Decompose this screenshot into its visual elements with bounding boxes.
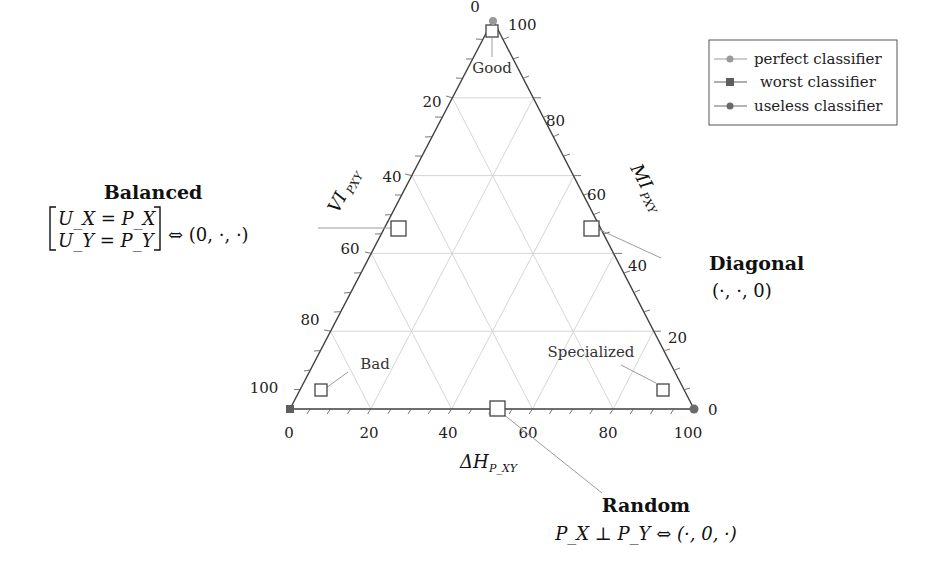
axis-title-left: VI PXY (323, 163, 367, 217)
good-marker (486, 25, 498, 37)
circle-marker-icon (727, 56, 734, 63)
balanced-title: Balanced (104, 181, 203, 203)
legend-label: perfect classifier (754, 50, 882, 68)
legend-label: useless classifier (754, 97, 883, 115)
balanced-equiv: ⇔ (0, ·, ·) (168, 224, 249, 245)
tick-label: 0 (470, 0, 480, 16)
axis-title-main: ΔH (459, 451, 489, 472)
axis-title-main: MI (626, 159, 657, 193)
tick-label: 0 (708, 401, 718, 419)
diagonal-formula: (·, ·, 0) (712, 280, 772, 301)
diagonal-title: Diagonal (709, 252, 804, 274)
bad-marker (315, 384, 327, 396)
worst-classifier-point (286, 405, 294, 413)
tick-label: 80 (546, 112, 565, 130)
random-title: Random (602, 494, 690, 516)
balanced-row2: U_Y = P_Y (58, 230, 156, 252)
specialized-marker (657, 384, 669, 396)
tick-label: 60 (587, 186, 606, 204)
tick-label: 100 (508, 16, 537, 34)
tick-label: 40 (628, 257, 647, 275)
tick-label: 40 (382, 168, 401, 186)
tick-label: 80 (300, 311, 319, 329)
balanced-row1: U_X = P_X (58, 208, 157, 230)
bottom-tick-labels: 0 20 40 60 80 100 (284, 424, 702, 442)
square-marker-icon (726, 78, 734, 86)
tick-label: 100 (674, 424, 703, 442)
balanced-annotation: Balanced U_X = P_X U_Y = P_Y ⇔ (0, ·, ·) (50, 181, 249, 252)
specialized-label: Specialized (548, 343, 635, 361)
tick-label: 0 (284, 424, 294, 442)
tick-label: 20 (359, 424, 378, 442)
left-tick-labels: 0 20 40 60 80 100 (250, 0, 480, 397)
tick-label: 40 (438, 424, 457, 442)
random-formula: P_X ⊥ P_Y ⇔ (·, 0, ·) (554, 523, 737, 545)
tick-label: 100 (250, 379, 279, 397)
perfect-classifier-point (489, 17, 497, 25)
axis-title-bottom: ΔH P_XY (459, 451, 519, 475)
useless-classifier-point (690, 405, 699, 414)
legend: perfect classifier worst classifier usel… (709, 40, 897, 125)
balanced-marker (391, 221, 406, 236)
legend-label: worst classifier (760, 73, 877, 91)
bad-label: Bad (360, 355, 390, 373)
tick-label: 20 (668, 329, 687, 347)
diagonal-annotation: Diagonal (·, ·, 0) (709, 252, 804, 301)
ternary-diagram: 0 20 40 60 80 100 0 20 40 60 80 100 100 … (0, 0, 947, 573)
tick-label: 20 (422, 93, 441, 111)
axis-title-sub: P_XY (488, 462, 519, 475)
axis-title-sub: PXY (636, 189, 659, 217)
tick-label: 60 (340, 240, 359, 258)
axis-title-right: MI PXY (623, 159, 669, 217)
good-label: Good (472, 59, 512, 77)
tick-label: 80 (598, 424, 617, 442)
axis-title-sub: PXY (344, 169, 367, 197)
random-marker (490, 401, 505, 416)
diagonal-marker (584, 221, 599, 236)
random-annotation: Random P_X ⊥ P_Y ⇔ (·, 0, ·) (554, 494, 737, 545)
circle-marker-icon (727, 103, 734, 110)
